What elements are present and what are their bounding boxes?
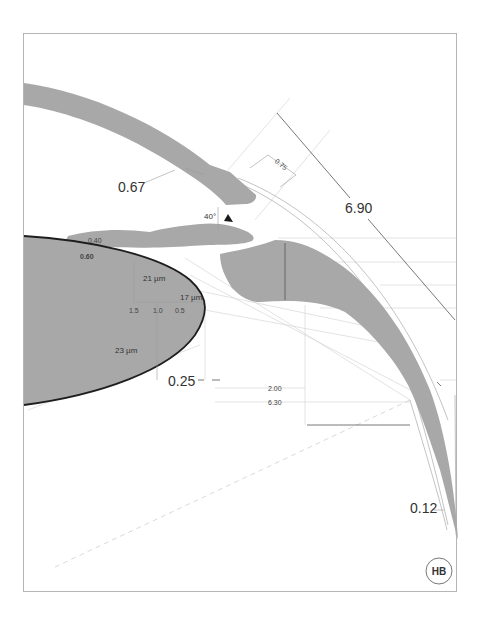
- label-iris-thickness: 0.40: [88, 237, 102, 244]
- label-gap-025: 0.25: [168, 373, 195, 389]
- label-scale-1-0: 1.0: [153, 307, 163, 314]
- label-angle: 40°: [204, 212, 216, 221]
- label-lens-23um: 23 µm: [115, 346, 138, 355]
- eye-anatomy-diagram: 0.67 0.75 6.90 40° 0.40 0.60 21 µm 17 µm…: [0, 0, 483, 622]
- label-scale-1-5: 1.5: [129, 307, 139, 314]
- label-cornea-thickness: 0.67: [118, 179, 145, 195]
- label-iris-lens-gap: 0.60: [80, 253, 94, 260]
- label-lens-17um: 17 µm: [180, 293, 203, 302]
- signature-initials: HB: [432, 566, 446, 577]
- label-chord-length: 6.90: [345, 200, 372, 216]
- label-lens-21um: 21 µm: [143, 274, 166, 283]
- label-scale-0-5: 0.5: [175, 307, 185, 314]
- label-dim-630: 6.30: [268, 399, 282, 406]
- label-sclera-thickness: 0.12: [410, 500, 437, 516]
- label-dim-200: 2.00: [268, 385, 282, 392]
